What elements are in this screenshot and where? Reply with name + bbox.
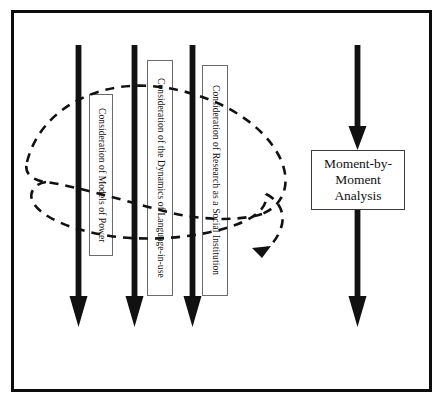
label-text-research-institution: Consideration of Research as a Social In…	[210, 85, 220, 275]
moment-box-line-1: Moment-by-	[324, 156, 392, 171]
moment-box-label: Moment-by- Moment Analysis	[324, 156, 392, 204]
label-box-research-institution: Consideration of Research as a Social In…	[202, 65, 228, 296]
diagram-canvas: Consideration of Models of Power Conside…	[0, 0, 442, 409]
moment-box-line-3: Analysis	[334, 188, 381, 203]
label-box-dynamics-of-language: Consideration of the Dynamics of Languag…	[147, 60, 173, 296]
moment-by-moment-analysis-box: Moment-by- Moment Analysis	[311, 150, 405, 210]
moment-box-line-2: Moment	[335, 172, 381, 187]
label-text-models-of-power: Consideration of Models of Power	[96, 108, 106, 243]
label-box-models-of-power: Consideration of Models of Power	[89, 94, 113, 256]
label-text-dynamics-of-language: Consideration of the Dynamics of Languag…	[155, 78, 165, 278]
